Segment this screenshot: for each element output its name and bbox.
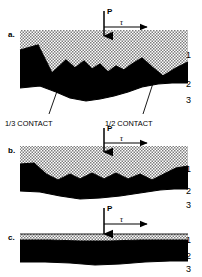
panel-b-layer-label-1: 1 [186,164,191,174]
panel-c-layer-label-2: 2 [186,251,191,261]
panel-a-layer-label-1: 1 [186,50,191,60]
contact-annotation-left: 1/3 CONTACT [5,119,53,128]
panel-a-letter: a. [8,30,15,39]
panel-b-letter: b. [8,146,15,155]
panel-c-layer-label-1: 1 [186,235,191,245]
panel-b-layer-label-3: 3 [186,200,191,210]
panel-c-letter: c. [8,233,15,242]
panel-b-load-label: P [107,124,113,133]
panel-a-layer-label-3: 3 [186,95,191,105]
panel-c-layer-label-3: 3 [186,264,191,274]
panel-a-layer-label-2: 2 [186,79,191,89]
panel-a-load-label: P [107,7,113,16]
panel-b-layer-label-2: 2 [186,186,191,196]
contact-mechanics-figure: a. P τ 1 2 3 1/3 CONTACT 1/2 CONTACT b. … [0,0,202,277]
panel-c-load-label: P [107,204,113,213]
figure-canvas: a. P τ 1 2 3 1/3 CONTACT 1/2 CONTACT b. … [0,0,202,277]
